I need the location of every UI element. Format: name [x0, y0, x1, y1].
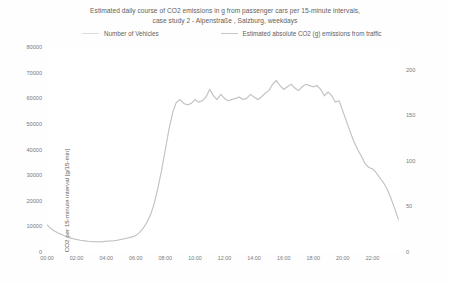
- legend-item-co2-emissions: Estimated absolute CO2 (g) emissions fro…: [221, 30, 382, 37]
- legend-label-vehicles: Number of Vehicles: [104, 30, 159, 37]
- y-axis-right-tick-label: 0: [406, 249, 409, 255]
- x-axis-ticks: 00:0002:0004:0006:0008:0010:0012:0014:00…: [47, 255, 402, 267]
- y-axis-left-tick-label: 80000: [26, 44, 42, 50]
- y-axis-right-ticks: 050100150200: [404, 47, 426, 252]
- y-axis-left-tick-label: 60000: [26, 95, 42, 101]
- x-axis-tick-label: 10:00: [188, 255, 202, 261]
- y-axis-left-ticks: 0100002000030000400005000060000700008000…: [18, 47, 44, 252]
- y-axis-left-tick-label: 70000: [26, 70, 42, 76]
- x-axis-tick-label: 16:00: [277, 255, 291, 261]
- plot-area: CO2 per 15-minute interval [g/15-min] Av…: [47, 47, 402, 252]
- plot-svg: [47, 47, 402, 252]
- y-axis-left-tick-label: 20000: [26, 198, 42, 204]
- y-axis-right-tick-label: 150: [406, 112, 415, 118]
- y-axis-right-tick-label: 100: [406, 158, 415, 164]
- x-axis-tick-label: 12:00: [218, 255, 232, 261]
- x-axis-tick-label: 20:00: [336, 255, 350, 261]
- legend-label-co2: Estimated absolute CO2 (g) emissions fro…: [243, 30, 382, 37]
- x-axis-tick-label: 22:00: [366, 255, 380, 261]
- y-axis-right-tick-label: 50: [406, 203, 412, 209]
- series-line-number-of-vehicles: [47, 81, 398, 242]
- chart-legend: Number of Vehicles Estimated absolute CO…: [60, 27, 400, 39]
- y-axis-left-tick-label: 50000: [26, 121, 42, 127]
- x-axis-tick-label: 02:00: [70, 255, 84, 261]
- x-axis-tick-label: 18:00: [307, 255, 321, 261]
- x-axis-tick-label: 00:00: [40, 255, 54, 261]
- x-axis-tick-label: 08:00: [159, 255, 173, 261]
- x-axis-tick-label: 04:00: [99, 255, 113, 261]
- y-axis-right-tick-label: 200: [406, 67, 415, 73]
- chart-title-line-1: Estimated daily course of CO2 emissions …: [90, 7, 360, 14]
- y-axis-left-tick-label: 10000: [26, 223, 42, 229]
- series-line-co2-emissions: [47, 80, 398, 241]
- y-axis-left-tick-label: 30000: [26, 172, 42, 178]
- chart-title: Estimated daily course of CO2 emissions …: [40, 6, 410, 25]
- chart-container: Estimated daily course of CO2 emissions …: [0, 0, 450, 284]
- legend-swatch-vehicles-icon: [82, 33, 99, 34]
- y-axis-left-tick-label: 40000: [26, 147, 42, 153]
- x-axis-tick-label: 06:00: [129, 255, 143, 261]
- chart-title-line-2: case study 2 - Alpenstraße , Salzburg, w…: [40, 16, 410, 26]
- x-axis-tick-label: 14:00: [247, 255, 261, 261]
- legend-item-number-of-vehicles: Number of Vehicles: [82, 30, 159, 37]
- y-axis-left-title: CO2 per 15-minute interval [g/15-min]: [63, 126, 70, 276]
- legend-swatch-co2-icon: [221, 33, 238, 34]
